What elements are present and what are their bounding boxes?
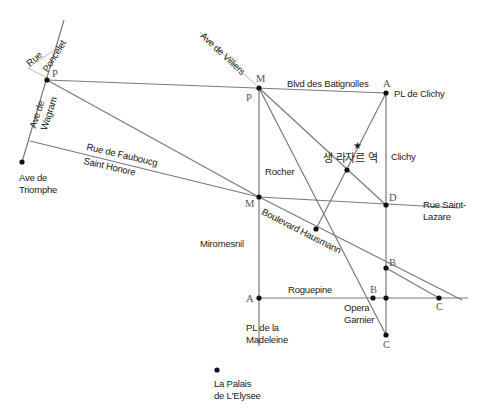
p-to-m-line (47, 80, 259, 197)
point-label-b-opera: B (370, 284, 377, 296)
point-label-d: D (389, 192, 397, 204)
label-pl-madeleine-2: Madeleine (246, 334, 288, 346)
point-label-m-top: M (256, 73, 265, 85)
label-opera-garnier-2: Garnier (344, 314, 374, 326)
label-palais-elysee-2: de L'Elysee (214, 390, 261, 402)
label-rue-saint-lazare-1: Rue Saint- (423, 199, 466, 211)
point-label-c-right: C (436, 301, 443, 313)
label-pl-clichy: PL de Clichy (394, 88, 445, 100)
label-palais-elysee-1: La Palais (214, 378, 251, 390)
label-clichy: Clichy (391, 151, 416, 163)
rue-faubourg-line (30, 141, 259, 197)
point-label-a-bottom: A (246, 293, 254, 305)
m-to-d-line (259, 88, 386, 205)
label-saint-lazare-station: 생 라자르 역 (323, 152, 378, 164)
point-label-c-bottom: C (383, 339, 390, 351)
point-label-p-top-left: P (52, 68, 58, 80)
point-label-m-mid: M (245, 198, 254, 210)
label-rue-saint-lazare-2: Lazare (423, 211, 451, 223)
point-label-a-top: A (383, 78, 391, 90)
label-ave-triomphe-2: Triomphe (19, 184, 57, 196)
label-rocher: Rocher (265, 166, 294, 178)
label-pl-madeleine-1: PL de la (246, 322, 279, 334)
point-label-b-right: B (389, 257, 396, 269)
label-opera-garnier-1: Opera (344, 302, 369, 314)
b-to-c-line (386, 268, 439, 298)
label-miromesnil: Miromesnil (200, 238, 244, 250)
label-roguepine: Roguepine (288, 284, 332, 296)
label-blvd-batignolles: Blvd des Batignolles (287, 78, 369, 90)
label-ave-triomphe-1: Ave de (19, 172, 47, 184)
map-canvas (0, 0, 488, 418)
point-label-p-top: P (246, 92, 252, 104)
map-points (19, 77, 441, 372)
station-star-icon: ★ (353, 140, 362, 152)
